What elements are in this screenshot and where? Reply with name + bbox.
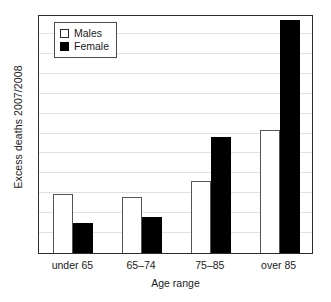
bar-males-0 <box>53 194 73 253</box>
bar-female-2 <box>211 137 231 253</box>
legend-label-males: Males <box>74 27 102 40</box>
bar-female-3 <box>280 20 300 253</box>
y-axis-title: Excess deaths 2007/2008 <box>0 0 36 254</box>
x-axis-title: Age range <box>38 277 313 289</box>
x-tick-label-1: 65–74 <box>107 258 176 272</box>
x-tick-label-3: over 85 <box>244 258 313 272</box>
legend: Males Female <box>54 22 117 58</box>
bar-chart: Excess deaths 2007/2008 Males Female und… <box>0 0 331 302</box>
x-tick-label-0: under 65 <box>38 258 107 272</box>
bar-males-1 <box>122 197 142 253</box>
x-tick-label-2: 75–85 <box>176 258 245 272</box>
legend-swatch-female-icon <box>60 42 69 51</box>
bar-males-3 <box>260 130 280 253</box>
legend-item-males: Males <box>60 27 109 40</box>
x-axis-tick-labels: under 6565–7475–85over 85 <box>38 258 313 274</box>
y-axis-title-text: Excess deaths 2007/2008 <box>12 65 24 188</box>
legend-swatch-males-icon <box>60 29 69 38</box>
bar-female-0 <box>73 223 93 253</box>
bar-female-1 <box>142 217 162 253</box>
legend-item-female: Female <box>60 40 109 53</box>
bar-males-2 <box>191 181 211 253</box>
legend-label-female: Female <box>74 40 109 53</box>
